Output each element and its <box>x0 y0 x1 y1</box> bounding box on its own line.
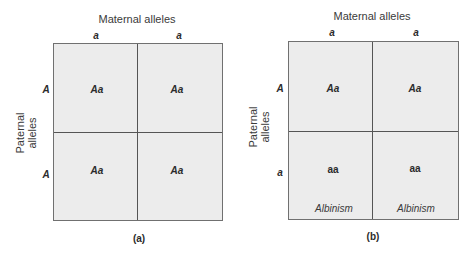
paternal-allele-1: A <box>42 84 49 95</box>
maternal-allele-2: a <box>413 27 419 38</box>
cell-genotype-4: aa <box>409 163 420 174</box>
maternal-allele-1: a <box>329 27 335 38</box>
paternal-allele-2: A <box>42 169 49 180</box>
cell-genotype-1: Aa <box>91 84 104 95</box>
cell-phenotype-3: Albinism <box>315 203 353 214</box>
paternal-allele-2: a <box>277 167 283 178</box>
punnett-square-b: Maternal alleles a a Paternal alleles A … <box>234 0 468 254</box>
paternal-label-line1: Paternal <box>247 107 259 148</box>
maternal-allele-1: a <box>93 30 99 41</box>
cell-genotype-2: Aa <box>171 84 184 95</box>
cell-genotype-4: Aa <box>171 165 184 176</box>
paternal-alleles-label: Paternal alleles <box>14 113 38 154</box>
cell-genotype-1: Aa <box>327 83 340 94</box>
caption-b: (b) <box>367 231 380 242</box>
caption-a: (a) <box>133 233 145 244</box>
paternal-allele-1: A <box>276 83 283 94</box>
punnett-grid <box>53 43 223 221</box>
cell-genotype-2: Aa <box>409 83 422 94</box>
punnett-square-a: Maternal alleles a a Paternal alleles A … <box>0 0 234 254</box>
paternal-alleles-label: Paternal alleles <box>247 107 271 148</box>
maternal-alleles-label: Maternal alleles <box>98 13 175 25</box>
maternal-allele-2: a <box>176 30 182 41</box>
punnett-grid <box>288 41 459 220</box>
grid-divider-horizontal <box>289 131 458 132</box>
paternal-label-line1: Paternal <box>14 113 26 154</box>
paternal-label-line2: alleles <box>26 113 38 154</box>
paternal-label-line2: alleles <box>259 107 271 148</box>
cell-genotype-3: Aa <box>91 165 104 176</box>
cell-genotype-3: aa <box>327 164 338 175</box>
grid-divider-horizontal <box>54 132 222 133</box>
cell-phenotype-4: Albinism <box>397 203 435 214</box>
maternal-alleles-label: Maternal alleles <box>333 10 410 22</box>
